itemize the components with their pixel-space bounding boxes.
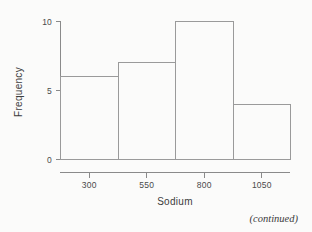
histogram-bar-2 xyxy=(118,63,176,160)
x-tick-label-800: 800 xyxy=(197,180,212,190)
x-tick-label-300: 300 xyxy=(82,180,97,190)
x-tick-label-1050: 1050 xyxy=(252,180,272,190)
histogram-plot: 0510 3005508001050 Frequency Sodium xyxy=(0,0,312,232)
y-tick-label-5: 5 xyxy=(38,86,52,96)
y-axis-title: Frequency xyxy=(13,67,24,117)
figure-page: 0510 3005508001050 Frequency Sodium (con… xyxy=(0,0,312,232)
histogram-bar-3 xyxy=(176,22,234,160)
continued-note: (continued) xyxy=(250,213,298,224)
y-tick-label-10: 10 xyxy=(38,17,52,27)
x-tick-label-550: 550 xyxy=(139,180,154,190)
histogram-bar-1 xyxy=(61,77,119,160)
histogram-bar-4 xyxy=(233,104,291,159)
x-axis-title: Sodium xyxy=(157,196,193,207)
y-axis-ticks xyxy=(56,22,61,160)
x-axis-ticks xyxy=(89,173,262,178)
chart-svg xyxy=(0,0,312,232)
histogram-bars xyxy=(61,22,291,160)
y-tick-label-0: 0 xyxy=(38,155,52,165)
